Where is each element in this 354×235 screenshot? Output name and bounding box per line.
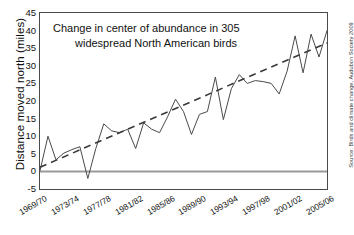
y-tick-label: 15 xyxy=(12,114,36,124)
y-tick-label: 40 xyxy=(12,26,36,36)
annotation-line-2: widespread North American birds xyxy=(53,36,263,51)
x-tick-label: 1977/78 xyxy=(73,194,112,222)
y-tick-label: -5 xyxy=(12,184,36,194)
y-tick-label: 30 xyxy=(12,61,36,71)
y-tick-label: 45 xyxy=(12,8,36,18)
y-tick-label: 0 xyxy=(12,166,36,176)
y-tick-label: 35 xyxy=(12,43,36,53)
y-tick-label: 25 xyxy=(12,78,36,88)
y-tick-label: 20 xyxy=(12,96,36,106)
x-tick-label: 2005/06 xyxy=(296,194,335,222)
source-credit: Source: Birds and climate change, Audubo… xyxy=(348,12,354,178)
trend-line xyxy=(40,43,327,167)
y-tick-label: 5 xyxy=(12,149,36,159)
annotation-line-1: Change in center of abundance in 305 xyxy=(53,21,263,36)
plot-area: Change in center of abundance in 305 wid… xyxy=(39,12,328,190)
chart-annotation: Change in center of abundance in 305 wid… xyxy=(53,21,263,50)
y-tick-label: 10 xyxy=(12,131,36,141)
